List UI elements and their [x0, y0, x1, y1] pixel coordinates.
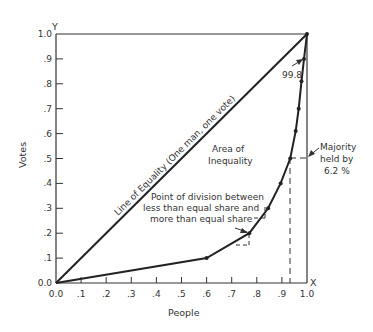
y-axis-letter: Y — [51, 21, 58, 32]
y-tick-label: .4 — [43, 178, 52, 188]
x-tick-label: 1.0 — [300, 289, 315, 299]
y-tick-label: .8 — [43, 79, 52, 89]
division-arrow — [235, 228, 248, 233]
y-tick-label: .2 — [43, 228, 52, 238]
y-tick-label: 0.0 — [38, 278, 53, 288]
top-value-label: 99.8 — [282, 70, 302, 80]
data-point — [247, 231, 251, 235]
data-point — [205, 256, 209, 260]
data-point — [302, 57, 306, 61]
x-tick-label: .9 — [278, 289, 287, 299]
x-tick-label: .1 — [77, 289, 86, 299]
x-tick-labels: 0.0.1.2.3.4.5.6.7.8.91.0 — [49, 289, 315, 299]
majority-label-2: held by — [320, 154, 354, 164]
area-of-inequality-label-2: Inequality — [208, 156, 253, 166]
division-label-2: less than equal share and — [143, 203, 259, 213]
top-value-arrow — [292, 59, 303, 66]
x-tick-label: .3 — [127, 289, 136, 299]
division-label-3: more than equal share — [150, 214, 253, 224]
y-tick-labels: 0.0.1.2.3.4.5.6.7.8.91.0 — [38, 29, 53, 288]
x-tick-label: 0.0 — [49, 289, 64, 299]
y-tick-label: .9 — [43, 54, 52, 64]
x-axis-title: People — [168, 307, 200, 318]
y-tick-label: .7 — [43, 104, 52, 114]
data-point — [279, 181, 283, 185]
data-point — [288, 157, 292, 161]
x-ticks — [81, 277, 282, 283]
y-tick-label: 1.0 — [38, 29, 53, 39]
majority-label-1: Majority — [320, 142, 357, 152]
lorenz-chart: 0.0.1.2.3.4.5.6.7.8.91.0 0.0.1.2.3.4.5.6… — [0, 0, 373, 332]
x-tick-label: .7 — [227, 289, 236, 299]
x-tick-label: .2 — [102, 289, 111, 299]
area-of-inequality-label: Area of — [212, 144, 245, 154]
y-ticks — [56, 59, 63, 258]
data-point — [294, 129, 298, 133]
x-tick-label: .5 — [177, 289, 186, 299]
equality-line — [56, 34, 307, 283]
division-label-1: Point of division between — [151, 192, 264, 202]
data-point — [266, 206, 270, 210]
x-axis-letter: X — [310, 277, 317, 288]
y-tick-label: .5 — [43, 154, 52, 164]
x-tick-label: .4 — [152, 289, 161, 299]
majority-arrow — [308, 148, 319, 157]
majority-guides — [290, 158, 307, 283]
y-axis-title: Votes — [17, 142, 28, 168]
majority-label-3: 6.2 % — [324, 166, 350, 176]
data-point — [297, 107, 301, 111]
y-tick-label: .6 — [43, 129, 52, 139]
data-point — [305, 32, 309, 36]
y-tick-label: .1 — [43, 253, 52, 263]
x-tick-label: .6 — [202, 289, 211, 299]
y-tick-label: .3 — [43, 203, 52, 213]
x-tick-label: .8 — [253, 289, 262, 299]
